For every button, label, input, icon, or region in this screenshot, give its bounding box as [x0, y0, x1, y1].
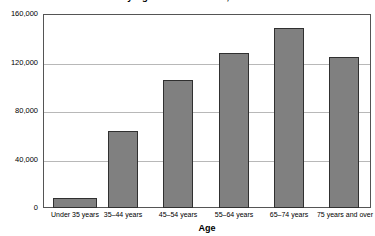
y-tick-label-160000: 160,000 — [0, 10, 38, 18]
y-tick-label-120000: 120,000 — [0, 59, 38, 67]
bar-under-35-years — [53, 198, 97, 208]
y-tick-label-40000: 40,000 — [0, 156, 38, 164]
bar-chart-figure: by Age of Householder, 1998 160,000 120,… — [0, 0, 375, 236]
bars-layer — [43, 14, 371, 208]
bar-55-64-years — [219, 53, 249, 208]
x-axis-title: Age — [43, 223, 371, 234]
x-tick-label-75-years-and-over: 75 years and over — [301, 210, 375, 219]
bar-35-44-years — [108, 131, 138, 208]
y-tick-label-80000: 80,000 — [0, 107, 38, 115]
x-axis-tick-labels: Under 35 years 35–44 years 45–54 years 5… — [43, 210, 371, 222]
bar-65-74-years — [274, 28, 304, 208]
bar-75-years-and-over — [329, 57, 359, 208]
bar-45-54-years — [163, 80, 193, 208]
